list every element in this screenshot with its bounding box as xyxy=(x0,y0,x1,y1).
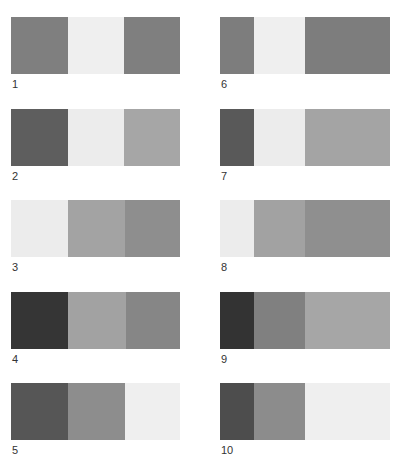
color-block xyxy=(305,383,390,440)
color-block xyxy=(125,200,180,257)
swatch-group-6 xyxy=(220,17,390,74)
color-block xyxy=(220,17,254,74)
color-block xyxy=(220,292,254,349)
color-block xyxy=(220,383,254,440)
color-block xyxy=(68,109,124,166)
color-block xyxy=(305,17,390,74)
swatch-group-1 xyxy=(11,17,180,74)
color-block xyxy=(68,383,125,440)
swatch-label: 4 xyxy=(12,353,18,365)
color-block xyxy=(305,109,390,166)
color-block xyxy=(254,292,305,349)
color-block xyxy=(11,383,68,440)
swatch-label: 2 xyxy=(12,170,18,182)
color-block xyxy=(11,17,68,74)
swatch-label: 5 xyxy=(12,444,18,456)
swatch-group-10 xyxy=(220,383,390,440)
swatch-group-2 xyxy=(11,109,180,166)
swatch-group-9 xyxy=(220,292,390,349)
swatch-group-7 xyxy=(220,109,390,166)
color-block xyxy=(126,292,180,349)
color-block xyxy=(254,109,305,166)
color-block xyxy=(125,383,180,440)
color-block xyxy=(68,200,125,257)
color-block xyxy=(68,17,124,74)
swatch-label: 6 xyxy=(221,78,227,90)
swatch-group-8 xyxy=(220,200,390,257)
color-block xyxy=(124,109,180,166)
swatch-group-4 xyxy=(11,292,180,349)
color-block xyxy=(124,17,180,74)
color-block xyxy=(220,200,254,257)
swatch-label: 7 xyxy=(221,170,227,182)
color-block xyxy=(254,200,305,257)
swatch-label: 8 xyxy=(221,261,227,273)
color-block xyxy=(11,292,68,349)
swatch-group-5 xyxy=(11,383,180,440)
swatch-label: 3 xyxy=(12,261,18,273)
color-block xyxy=(305,200,390,257)
color-block xyxy=(254,383,305,440)
color-block xyxy=(11,200,68,257)
color-block xyxy=(305,292,390,349)
swatch-group-3 xyxy=(11,200,180,257)
color-block xyxy=(220,109,254,166)
swatch-label: 10 xyxy=(221,444,233,456)
swatch-label: 1 xyxy=(12,78,18,90)
swatch-label: 9 xyxy=(221,353,227,365)
color-block xyxy=(68,292,126,349)
color-block xyxy=(11,109,68,166)
color-block xyxy=(254,17,305,74)
